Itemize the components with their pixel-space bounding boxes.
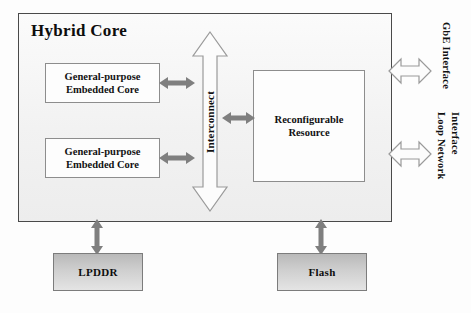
flash-label: Flash [308,266,335,278]
core-1-label-line2: Embedded Core [66,84,139,95]
general-purpose-embedded-core-2: General-purpose Embedded Core [45,138,160,178]
double-arrow-outline-horizontal-icon [388,57,432,85]
reconfigurable-label-line1: Reconfigurable [275,114,344,125]
arrow-loop-network-interface [388,140,432,168]
double-arrow-vertical-icon [313,219,329,255]
interconnect-label: Interconnect [204,90,216,152]
double-arrow-outline-horizontal-icon [388,140,432,168]
loop-network-interface-label-line2: Interface [450,112,461,155]
arrow-core1-to-interconnect [159,75,195,91]
loop-network-interface-label-line1: Loop Network [436,112,447,179]
flash-block: Flash [277,253,367,291]
core-2-label-line2: Embedded Core [66,159,139,170]
gbe-interface-label: GbE Interface [441,22,452,89]
diagram-canvas: Hybrid Core General-purpose Embedded Cor… [0,0,471,313]
hybrid-core-title: Hybrid Core [31,21,127,41]
arrow-gbe-interface [388,57,432,85]
lpddr-label: LPDDR [78,266,117,278]
reconfigurable-resource-block: Reconfigurable Resource [253,70,365,182]
double-arrow-horizontal-icon [222,110,255,126]
lpddr-block: LPDDR [53,253,143,291]
double-arrow-vertical-icon [89,219,105,255]
core-2-label-line1: General-purpose [65,146,141,157]
double-arrow-horizontal-icon [159,150,195,166]
arrow-hybridcore-to-flash [313,219,329,255]
double-arrow-horizontal-icon [159,75,195,91]
reconfigurable-label-line2: Resource [288,127,329,138]
arrow-hybridcore-to-lpddr [89,219,105,255]
arrow-core2-to-interconnect [159,150,195,166]
general-purpose-embedded-core-1: General-purpose Embedded Core [45,63,160,103]
arrow-interconnect-to-reconfigurable [222,110,255,126]
core-1-label-line1: General-purpose [65,71,141,82]
